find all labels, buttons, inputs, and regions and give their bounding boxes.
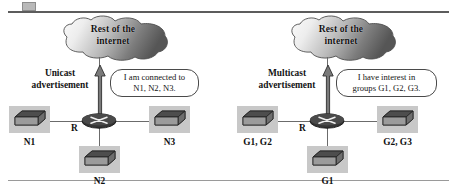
internet-cloud: Rest of the internet — [55, 15, 171, 62]
link-router-to-left-host — [274, 121, 314, 122]
bubble-line1: I have interest in — [341, 72, 432, 83]
cloud-label: Rest of the internet — [55, 24, 171, 47]
host-box-icon — [307, 146, 348, 173]
host-box-icon — [79, 146, 120, 173]
host-node-bottom — [79, 146, 120, 173]
cloud-label-line2: internet — [283, 36, 399, 48]
bubble-line2: groups G1, G2, G3. — [341, 83, 432, 94]
bubble-line1: I am connected to — [115, 72, 194, 83]
panel-unicast: Rest of the internet Unicast advertiseme… — [0, 13, 228, 180]
host-box-icon — [9, 106, 50, 133]
host-node-left — [9, 106, 50, 133]
router-node — [309, 113, 345, 129]
router-icon — [309, 113, 345, 129]
cloud-label-line1: Rest of the — [283, 24, 399, 36]
unicast-advertisement-label: Unicast advertisement — [16, 68, 104, 91]
host-label-bottom: N2 — [70, 176, 129, 186]
host-box-icon — [237, 106, 278, 133]
link-router-to-left-host — [46, 121, 86, 122]
host-label-left: G1, G2 — [228, 137, 287, 147]
host-node-right — [149, 106, 190, 133]
host-label-bottom: G1 — [298, 176, 357, 186]
side-label-line2: advertisement — [242, 80, 332, 92]
internet-cloud: Rest of the internet — [283, 15, 399, 62]
host-label-right: G2, G3 — [366, 137, 429, 147]
router-speech-bubble: I have interest in groups G1, G2, G3. — [336, 69, 437, 97]
host-label-right: N3 — [140, 137, 199, 147]
figure-canvas: Rest of the internet Unicast advertiseme… — [0, 0, 457, 190]
router-speech-bubble: I am connected to N1, N2, N3. — [110, 69, 199, 97]
host-node-left — [237, 106, 278, 133]
host-box-icon — [149, 106, 190, 133]
side-label-line2: advertisement — [16, 80, 104, 92]
host-node-right — [377, 106, 418, 133]
multicast-advertisement-label: Multicast advertisement — [242, 68, 332, 91]
side-label-line1: Unicast — [16, 68, 104, 80]
panel-multicast: Rest of the internet Multicast advertise… — [228, 13, 456, 180]
cloud-label: Rest of the internet — [283, 24, 399, 47]
router-node — [81, 113, 117, 129]
cloud-label-line2: internet — [55, 36, 171, 48]
router-label: R — [299, 123, 306, 133]
router-icon — [81, 113, 117, 129]
cloud-label-line1: Rest of the — [55, 24, 171, 36]
host-box-icon — [377, 106, 418, 133]
router-label: R — [71, 123, 78, 133]
corner-marker-icon — [22, 2, 36, 11]
host-label-left: N1 — [0, 137, 59, 147]
host-node-bottom — [307, 146, 348, 173]
side-label-line1: Multicast — [242, 68, 332, 80]
bubble-line2: N1, N2, N3. — [115, 83, 194, 94]
